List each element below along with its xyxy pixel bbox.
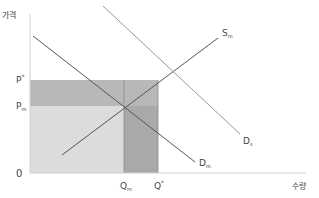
supply-demand-chart: 가격 수량 0 SmDmDsP*PmQmQ* bbox=[0, 0, 319, 198]
x-axis-label: 수량 bbox=[292, 181, 307, 191]
area-Qm-Qstar-0-Pm bbox=[124, 106, 158, 173]
curve-label-Ds: Ds bbox=[243, 136, 253, 147]
curve-label-Dm: Dm bbox=[199, 158, 211, 169]
origin-label: 0 bbox=[16, 168, 22, 179]
shaded-regions bbox=[30, 80, 158, 173]
price-label-Pm: Pm bbox=[16, 101, 26, 112]
area-0-Qm-0-Pm bbox=[30, 106, 124, 173]
curve-label-Sm: Sm bbox=[222, 28, 233, 39]
price-label-P*: P* bbox=[16, 73, 24, 85]
quantity-label-Qm: Qm bbox=[120, 181, 132, 192]
quantity-label-Q*: Q* bbox=[154, 179, 164, 191]
y-axis-label: 가격 bbox=[2, 10, 16, 20]
